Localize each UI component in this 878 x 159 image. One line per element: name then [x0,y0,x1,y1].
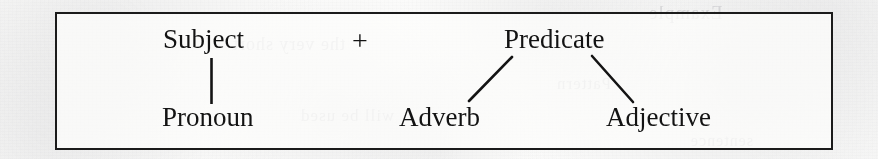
connector-predicate-adverb [469,57,512,101]
node-adverb: Adverb [399,104,480,131]
node-pronoun: Pronoun [162,104,254,131]
scanned-page: Example the very short Pattern will be u… [0,0,878,159]
connector-lines [0,0,878,159]
node-predicate: Predicate [504,26,604,53]
connector-predicate-adjective [592,56,633,102]
node-adjective: Adjective [606,104,711,131]
node-subject: Subject [163,26,244,53]
plus-operator: + [352,27,368,55]
sentence-structure-diagram: Subject + Predicate Pronoun Adverb Adjec… [0,0,878,159]
